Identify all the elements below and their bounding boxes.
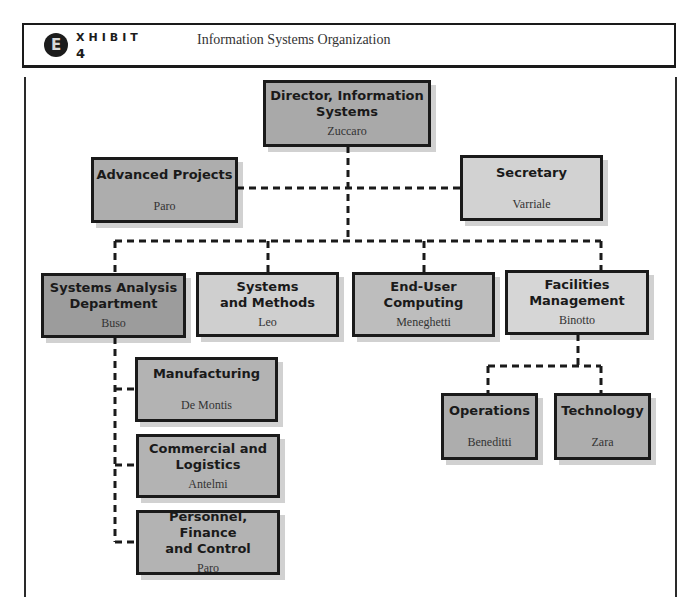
facilities-management-person: Binotto [559,313,595,328]
commercial-logistics-person: Antelmi [188,477,227,492]
operations-person: Beneditti [468,435,512,450]
end-user-computing-title: End-User Computing [384,279,464,311]
operations-title: Operations [449,403,530,419]
personnel-finance-control-title: Personnel, Finance and Control [139,509,277,557]
commercial-logistics-title: Commercial and Logistics [149,441,267,473]
director-box: Director, Information Systems Zuccaro [263,80,431,147]
director-person: Zuccaro [327,124,366,139]
advanced-projects-box: Advanced Projects Paro [91,157,238,223]
systems-analysis-box: Systems Analysis Department Buso [41,273,186,338]
secretary-person: Varriale [513,197,551,212]
facilities-management-title: Facilities Management [529,277,625,309]
systems-methods-box: Systems and Methods Leo [196,272,339,337]
personnel-finance-control-box: Personnel, Finance and Control Paro [136,510,280,575]
secretary-title: Secretary [496,165,567,181]
manufacturing-person: De Montis [181,398,232,413]
systems-analysis-person: Buso [101,316,126,331]
technology-box: Technology Zara [554,393,651,460]
commercial-logistics-box: Commercial and Logistics Antelmi [136,434,280,498]
facilities-management-box: Facilities Management Binotto [505,270,649,335]
operations-box: Operations Beneditti [441,393,538,460]
technology-person: Zara [592,435,614,450]
secretary-box: Secretary Varriale [460,155,603,221]
director-title: Director, Information Systems [270,88,424,120]
technology-title: Technology [561,403,643,419]
manufacturing-title: Manufacturing [153,366,260,382]
end-user-computing-person: Meneghetti [396,315,451,330]
systems-methods-title: Systems and Methods [220,279,315,311]
end-user-computing-box: End-User Computing Meneghetti [352,272,495,337]
advanced-projects-person: Paro [154,199,176,214]
personnel-finance-control-person: Paro [197,561,219,576]
systems-methods-person: Leo [258,315,277,330]
advanced-projects-title: Advanced Projects [96,167,232,183]
systems-analysis-title: Systems Analysis Department [50,280,177,312]
manufacturing-box: Manufacturing De Montis [135,357,278,422]
